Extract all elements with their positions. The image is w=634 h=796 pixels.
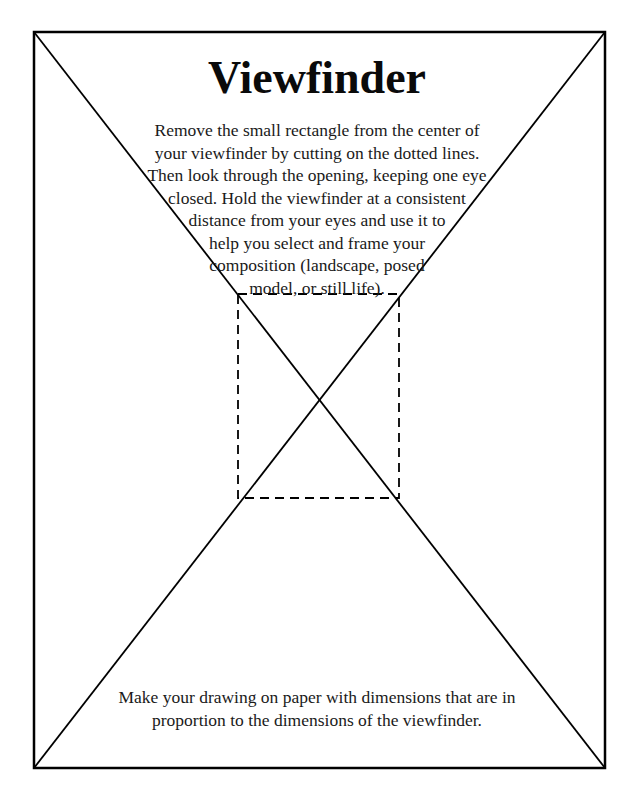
cutout-dashed-rectangle [238,294,399,498]
instructions-line: closed. Hold the viewfinder at a consist… [117,187,517,210]
instructions-line: composition (landscape, posed [117,254,517,277]
footer-note-line: proportion to the dimensions of the view… [100,709,534,732]
instructions-line: model, or still life). [117,277,517,300]
instructions-line: your viewfinder by cutting on the dotted… [117,142,517,165]
footer-note-line: Make your drawing on paper with dimensio… [100,686,534,709]
instructions-line: distance from your eyes and use it to [117,209,517,232]
footer-note: Make your drawing on paper with dimensio… [100,686,534,731]
instructions-paragraph: Remove the small rectangle from the cent… [117,119,517,299]
page-title: Viewfinder [0,50,634,106]
instructions-line: help you select and frame your [117,232,517,255]
instructions-line: Remove the small rectangle from the cent… [117,119,517,142]
instructions-line: Then look through the opening, keeping o… [117,164,517,187]
